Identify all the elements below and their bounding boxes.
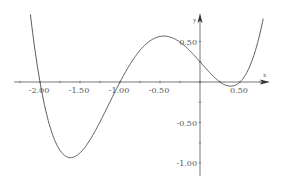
x-tick-label: 0.50 xyxy=(230,86,248,95)
x-tick-label: -1.00 xyxy=(109,86,130,95)
function-plot: x y -2.00-1.50-1.00-0.500.50 0.50-0.50-1… xyxy=(0,0,281,182)
x-tick-label: -1.50 xyxy=(69,86,90,95)
x-tick-label: -2.00 xyxy=(29,86,50,95)
y-tick-label: 0.50 xyxy=(179,38,197,47)
x-tick-label: -0.50 xyxy=(149,86,170,95)
x-axis: x xyxy=(14,71,270,85)
y-tick-label: -1.00 xyxy=(176,159,197,168)
y-axis-label: y xyxy=(192,16,197,24)
y-axis-arrow-icon xyxy=(198,13,203,23)
y-ticks: 0.50-0.50-1.00 xyxy=(176,38,201,169)
x-axis-label: x xyxy=(263,71,267,78)
x-ticks: -2.00-1.50-1.00-0.500.50 xyxy=(20,81,260,95)
function-curve xyxy=(30,14,263,157)
y-tick-label: -0.50 xyxy=(176,119,197,128)
